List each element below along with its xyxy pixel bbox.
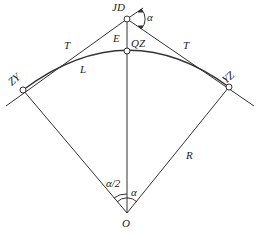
label-tangent-right: T — [183, 40, 189, 51]
point-qz-marker — [124, 48, 130, 54]
label-half-angle: α/2 — [106, 178, 120, 189]
point-jd-marker — [124, 16, 130, 22]
curve-diagram: JD α E QZ T T L ZY YZ R α/2 α O — [0, 0, 257, 237]
label-qz: QZ — [131, 38, 145, 49]
label-arc: L — [80, 64, 86, 75]
half-angle-arc — [114, 194, 127, 198]
diagram-graphics — [0, 0, 257, 237]
radius-left — [23, 90, 127, 213]
label-center-angle: α — [131, 187, 137, 198]
curve-arc — [23, 50, 229, 90]
label-jd: JD — [112, 2, 125, 13]
label-external: E — [113, 33, 120, 44]
label-tangent-left: T — [64, 40, 70, 51]
label-radius: R — [186, 150, 193, 161]
point-zy-marker — [20, 87, 26, 93]
radius-right — [127, 87, 229, 213]
label-o: O — [122, 218, 130, 229]
tangent-line-right — [127, 19, 254, 106]
label-deflection-angle: α — [147, 12, 153, 23]
